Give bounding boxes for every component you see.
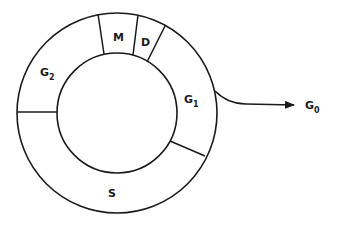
cell-cycle-diagram: M D G1 S G2 G0 — [0, 0, 347, 225]
phase-label-g1: G1 — [184, 93, 199, 109]
phase-label-s: S — [108, 187, 116, 200]
divider-g1-s — [170, 141, 205, 156]
phase-label-d: D — [141, 36, 150, 49]
exit-label-g0: G0 — [305, 99, 320, 115]
divider-g2-m — [98, 14, 104, 54]
phase-label-g2: G2 — [40, 66, 55, 82]
inner-ring — [57, 53, 177, 173]
divider-m-d — [133, 15, 138, 55]
exit-arrow — [215, 91, 294, 105]
phase-label-m: M — [113, 31, 124, 44]
